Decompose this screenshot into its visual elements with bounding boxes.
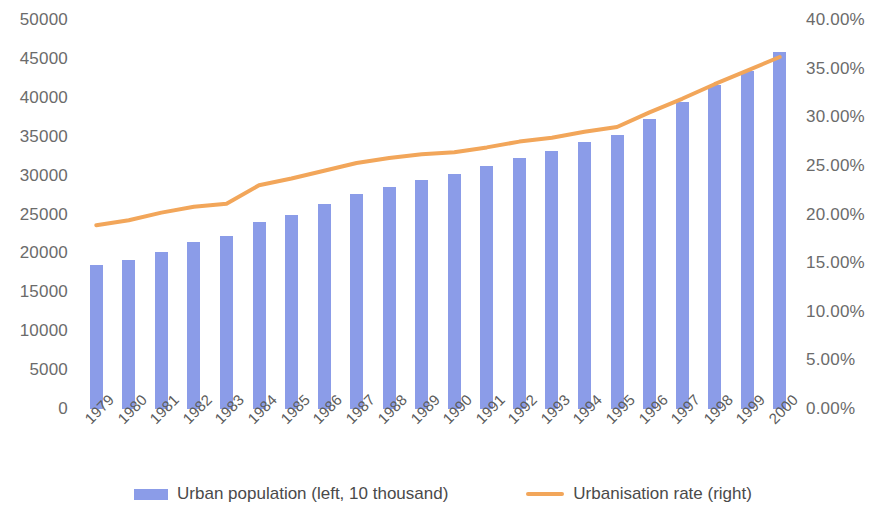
line-series (80, 20, 796, 409)
urbanisation-rate-line (96, 57, 779, 225)
legend-item-urbanisation-rate: Urbanisation rate (right) (526, 484, 752, 504)
plot-area (80, 20, 796, 409)
y-axis-right-tick: 30.00% (806, 107, 865, 127)
y-axis-right-tick: 40.00% (806, 10, 865, 30)
legend-label-urbanisation-rate: Urbanisation rate (right) (573, 484, 752, 504)
legend-bar-swatch-icon (134, 489, 168, 500)
y-axis-right-tick: 10.00% (806, 302, 865, 322)
legend-line-swatch-icon (526, 492, 564, 496)
y-axis-left-tick: 40000 (20, 88, 68, 108)
y-axis-right-tick: 0.00% (806, 399, 855, 419)
y-axis-left: 0500010000150002000025000300003500040000… (0, 0, 68, 514)
legend-item-urban-population: Urban population (left, 10 thousand) (134, 484, 448, 504)
y-axis-right-tick: 15.00% (806, 253, 865, 273)
y-axis-left-tick: 45000 (20, 49, 68, 69)
chart-legend: Urban population (left, 10 thousand) Urb… (0, 484, 886, 504)
y-axis-right-tick: 35.00% (806, 59, 865, 79)
y-axis-right-tick: 20.00% (806, 205, 865, 225)
y-axis-right-tick: 5.00% (806, 350, 855, 370)
chart-container: 0500010000150002000025000300003500040000… (0, 0, 886, 514)
y-axis-left-tick: 20000 (20, 243, 68, 263)
y-axis-left-tick: 5000 (29, 360, 68, 380)
y-axis-left-tick: 50000 (20, 10, 68, 30)
legend-label-urban-population: Urban population (left, 10 thousand) (177, 484, 448, 504)
y-axis-left-tick: 0 (58, 399, 68, 419)
y-axis-left-tick: 10000 (20, 321, 68, 341)
y-axis-left-tick: 35000 (20, 127, 68, 147)
y-axis-left-tick: 25000 (20, 205, 68, 225)
y-axis-right-tick: 25.00% (806, 156, 865, 176)
y-axis-left-tick: 30000 (20, 166, 68, 186)
y-axis-left-tick: 15000 (20, 282, 68, 302)
y-axis-right: 0.00%5.00%10.00%15.00%20.00%25.00%30.00%… (806, 0, 886, 514)
